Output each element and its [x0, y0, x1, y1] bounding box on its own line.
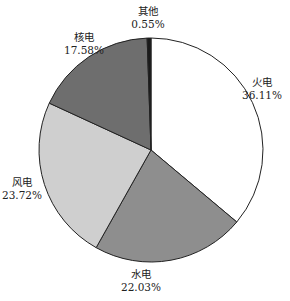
label-wind: 风电 23.72% — [0, 176, 52, 202]
label-nuclear: 核电 17.58% — [54, 31, 114, 57]
label-thermal: 火电 36.11% — [232, 76, 290, 102]
pie-chart: 其他 0.55% 核电 17.58% 火电 36.11% 风电 23.72% 水… — [0, 0, 290, 301]
label-other: 其他 0.55% — [118, 5, 178, 31]
label-hydro: 水电 22.03% — [111, 268, 171, 294]
pie-graphic — [0, 0, 290, 301]
